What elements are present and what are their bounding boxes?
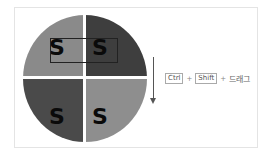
plus-sign: + (186, 75, 192, 83)
quadrant-bottom-right: S (86, 79, 147, 142)
plus-sign: + (220, 75, 226, 83)
key-ctrl: Ctrl (165, 73, 183, 84)
selection-rectangle (50, 38, 118, 63)
down-arrow-line (153, 57, 154, 100)
quadrant-bottom-left: S (23, 79, 83, 142)
letter-s: S (92, 106, 108, 128)
shortcut-hint: Ctrl + Shift + 드래그 (165, 73, 250, 84)
letter-s: S (49, 106, 65, 128)
down-arrow-icon (150, 98, 156, 104)
key-shift: Shift (195, 73, 217, 84)
circle-shape: S S S S (23, 15, 147, 142)
action-drag: 드래그 (229, 73, 250, 84)
